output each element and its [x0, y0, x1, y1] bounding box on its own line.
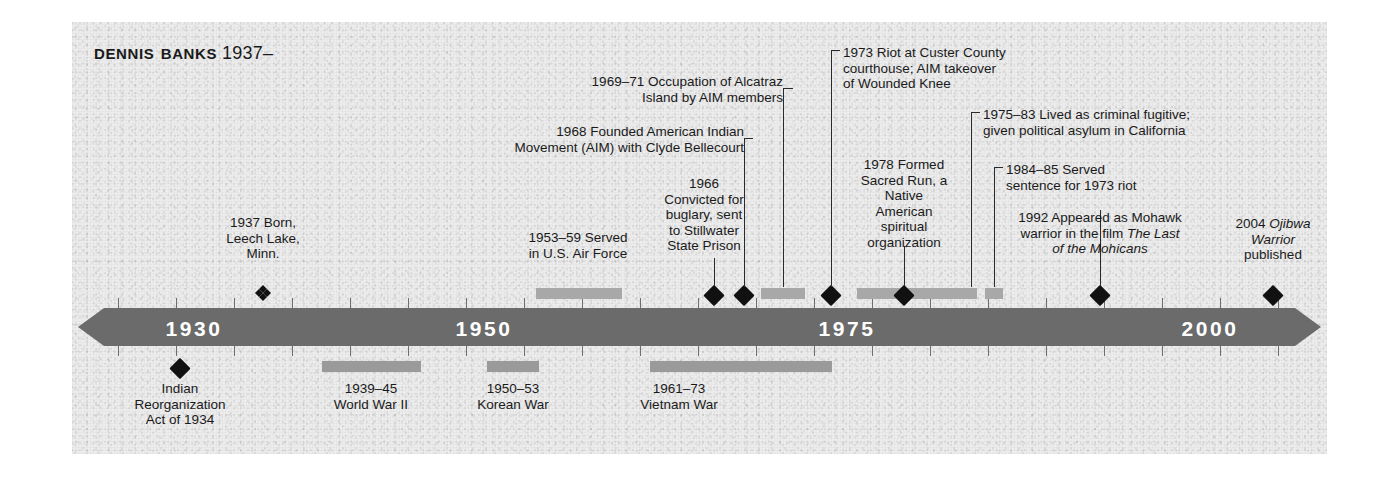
callout-world-war-two: 1939–45 World War II — [296, 381, 446, 412]
span-bar-vietnam-war — [650, 361, 832, 372]
callout-korean-war: 1950–53 Korean War — [438, 381, 588, 412]
span-bar-korean-war — [487, 361, 539, 372]
callout-indian-reorganization: Indian Reorganization Act of 1934 — [105, 381, 255, 428]
diamond-marker-indian-reorganization — [169, 358, 190, 379]
callout-vietnam-war: 1961–73 Vietnam War — [604, 381, 754, 412]
timeline-graphic: Dennis Banks1937– — [0, 0, 1397, 492]
span-bar-world-war-two — [322, 361, 421, 372]
marker-layer-below: Indian Reorganization Act of 1934 1939–4… — [0, 0, 1397, 492]
